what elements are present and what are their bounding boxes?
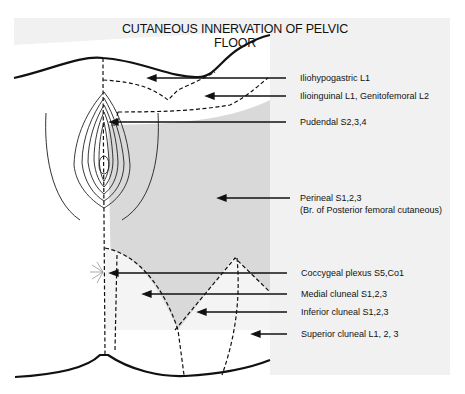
label-ilioinguinal: Ilioinguinal L1, Genitofemoral L2 bbox=[300, 91, 429, 102]
label-perineal: Perineal S1,2,3 bbox=[300, 193, 362, 204]
label-coccygeal-plexus: Coccygeal plexus S5,Co1 bbox=[301, 268, 404, 279]
label-inferior-cluneal: Inferior cluneal S1,2,3 bbox=[301, 307, 389, 318]
diagram-title: CUTANEOUS INNERVATION OF PELVIC FLOOR bbox=[100, 22, 370, 50]
label-perineal-subtitle: (Br. of Posterior femoral cutaneous) bbox=[300, 205, 442, 216]
label-superior-cluneal: Superior cluneal L1, 2, 3 bbox=[301, 329, 399, 340]
label-iliohypogastric: Iliohypogastric L1 bbox=[300, 73, 370, 84]
label-medial-cluneal: Medial cluneal S1,2,3 bbox=[301, 289, 387, 300]
label-pudendal: Pudendal S2,3,4 bbox=[300, 117, 367, 128]
